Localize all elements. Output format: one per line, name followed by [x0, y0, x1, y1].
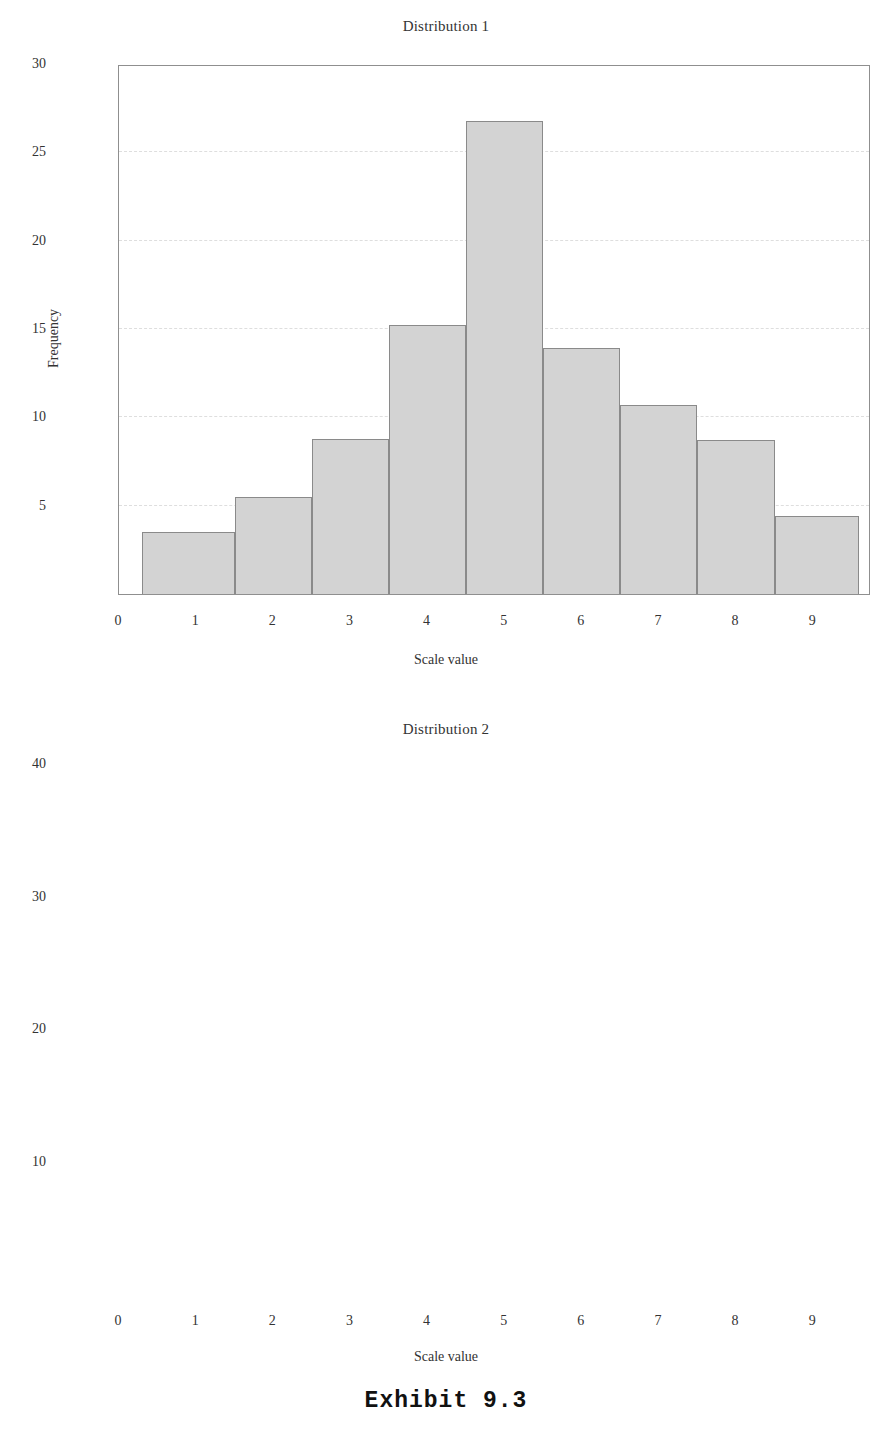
y-tick-label: 15 [0, 321, 46, 337]
x-tick-label: 2 [257, 613, 287, 629]
x-tick-label: 9 [797, 613, 827, 629]
x-tick-label: 8 [720, 1313, 750, 1329]
x-tick-label: 8 [720, 613, 750, 629]
exhibit-caption: Exhibit 9.3 [0, 1388, 892, 1414]
histogram-bar [543, 348, 620, 594]
chart-title-1: Distribution 1 [0, 18, 892, 35]
y-tick-label: 10 [0, 1154, 46, 1170]
x-tick-label: 4 [412, 613, 442, 629]
histogram-bar [312, 439, 389, 594]
x-tick-label: 4 [412, 1313, 442, 1329]
chart-distribution-2: Distribution 2 Frequency Scale value [0, 703, 892, 1363]
x-tick-label: 2 [257, 1313, 287, 1329]
x-tick-label: 9 [797, 1313, 827, 1329]
x-axis-label-2: Scale value [0, 1349, 892, 1365]
chart-title-2: Distribution 2 [0, 721, 892, 738]
y-tick-label: 20 [0, 233, 46, 249]
histogram-bar [466, 121, 543, 594]
x-tick-label: 0 [103, 613, 133, 629]
histogram-bar [697, 440, 774, 594]
chart-distribution-1: Distribution 1 Frequency Scale value [0, 0, 892, 690]
y-tick-label: 25 [0, 144, 46, 160]
histogram-bar [389, 325, 466, 594]
x-tick-label: 3 [334, 1313, 364, 1329]
histogram-bar [142, 532, 235, 594]
x-tick-label: 1 [180, 613, 210, 629]
figure-page: Distribution 1 Frequency Scale value Dis… [0, 0, 892, 1439]
histogram-bar [620, 405, 697, 594]
x-tick-label: 5 [489, 613, 519, 629]
x-tick-label: 7 [643, 613, 673, 629]
y-axis-label-1: Frequency [46, 309, 62, 368]
x-tick-label: 3 [334, 613, 364, 629]
x-axis-label-1: Scale value [0, 652, 892, 668]
y-tick-label: 5 [0, 498, 46, 514]
y-tick-label: 20 [0, 1021, 46, 1037]
plot-area-1 [118, 65, 870, 595]
x-tick-label: 6 [566, 613, 596, 629]
x-tick-label: 1 [180, 1313, 210, 1329]
x-tick-label: 7 [643, 1313, 673, 1329]
x-tick-label: 5 [489, 1313, 519, 1329]
x-tick-label: 6 [566, 1313, 596, 1329]
y-tick-label: 30 [0, 889, 46, 905]
y-tick-label: 30 [0, 56, 46, 72]
x-tick-label: 0 [103, 1313, 133, 1329]
y-tick-label: 10 [0, 409, 46, 425]
histogram-bar [235, 497, 312, 594]
y-tick-label: 40 [0, 756, 46, 772]
histogram-bar [775, 516, 860, 594]
